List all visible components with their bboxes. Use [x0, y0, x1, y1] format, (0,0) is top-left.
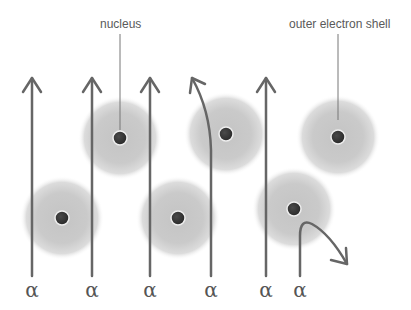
nucleus-icon — [287, 202, 301, 216]
alpha-label: α — [293, 278, 307, 302]
nucleus-icon — [219, 127, 233, 141]
nucleus-icon — [113, 131, 127, 145]
rutherford-scattering-diagram: nucleus outer electron shell α α α α α α — [0, 0, 411, 310]
alpha-label: α — [259, 278, 273, 302]
alpha-label: α — [204, 278, 218, 302]
nucleus-icon — [55, 211, 69, 225]
alpha-label: α — [25, 278, 39, 302]
nucleus-icon — [171, 211, 185, 225]
diagram-canvas — [0, 0, 411, 310]
alpha-label: α — [85, 278, 99, 302]
alpha-label: α — [143, 278, 157, 302]
nucleus-label: nucleus — [100, 17, 141, 31]
nucleus-icon — [331, 130, 345, 144]
outer-electron-shell-label: outer electron shell — [289, 17, 390, 31]
